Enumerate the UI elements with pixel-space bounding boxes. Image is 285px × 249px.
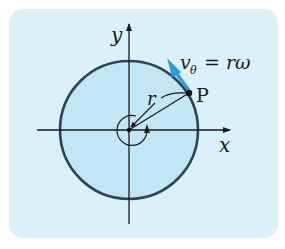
- rotation-diagram: y x r P v θ = rω: [0, 0, 285, 249]
- velocity-equation: v θ = rω: [180, 51, 251, 77]
- y-axis-label: y: [110, 23, 123, 47]
- radius-label: r: [147, 88, 157, 109]
- velocity-subscript: θ: [190, 64, 197, 77]
- point-p-label: P: [196, 84, 209, 106]
- origin-marker: [127, 128, 131, 132]
- velocity-rhs: = rω: [204, 51, 251, 73]
- x-axis-label: x: [219, 133, 230, 157]
- point-p-marker: [186, 90, 192, 96]
